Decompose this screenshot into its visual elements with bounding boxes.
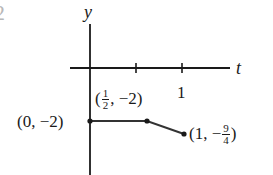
graph-line (90, 121, 184, 134)
point-half (144, 118, 149, 123)
point-0 (87, 118, 92, 123)
point-label-origin: (0, −2) (17, 113, 63, 130)
point-label-one: (1, −94) (189, 124, 236, 147)
plot-figure: 2 y t 1 (0, −2) (12, −2) (1, −94) (0, 0, 273, 175)
tick-label-one: 1 (177, 84, 186, 101)
plot-canvas (0, 0, 273, 175)
t-axis-label: t (236, 59, 241, 77)
point-label-half: (12, −2) (95, 89, 142, 112)
fraction-nine-quarters: 94 (222, 123, 230, 146)
point-one (181, 131, 186, 136)
y-axis-label: y (84, 3, 92, 21)
fraction-one-half: 12 (102, 88, 110, 111)
